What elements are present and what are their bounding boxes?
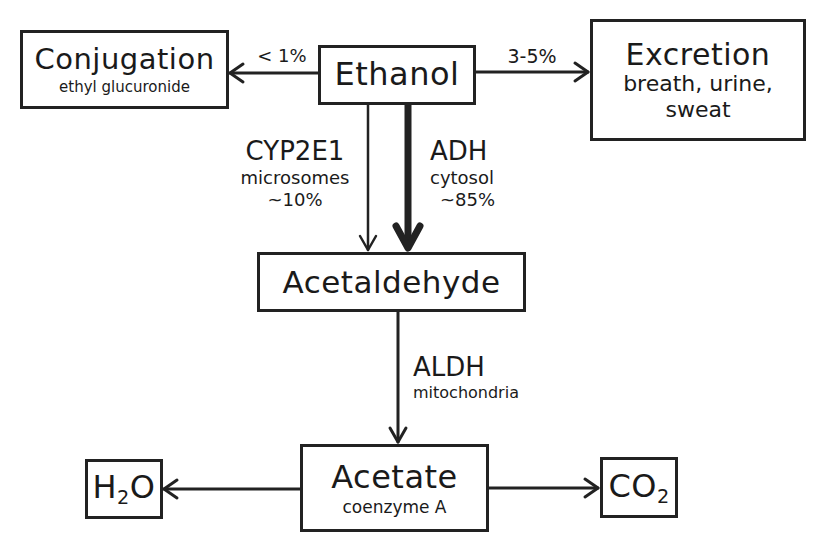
ethanol-box: Ethanol — [318, 45, 476, 105]
co2-prefix: CO — [608, 467, 657, 505]
cyp2e1-percent: ~10% — [230, 189, 360, 211]
acetate-box: Acetate coenzyme A — [300, 444, 489, 532]
conjugation-percent: < 1% — [257, 45, 306, 66]
adh-percent: ~85% — [424, 189, 514, 211]
acetaldehyde-box: Acetaldehyde — [257, 252, 526, 312]
adh-location: cytosol — [424, 167, 514, 189]
aldh-location: mitochondria — [413, 383, 553, 402]
water-formula: H2O — [93, 470, 156, 508]
water-subscript: 2 — [117, 486, 130, 509]
cyp2e1-label: CYP2E1 microsomes ~10% — [230, 136, 360, 210]
conjugation-subtitle: ethyl glucuronide — [59, 79, 190, 96]
conjugation-box: Conjugation ethyl glucuronide — [20, 30, 229, 109]
conjugation-title: Conjugation — [34, 44, 214, 76]
excretion-title: Excretion — [626, 38, 771, 71]
conjugation-percent-label: < 1% — [252, 45, 312, 67]
excretion-percent-label: 3-5% — [492, 45, 572, 68]
excretion-percent: 3-5% — [507, 45, 556, 67]
acetaldehyde-title: Acetaldehyde — [282, 265, 500, 299]
ethanol-title: Ethanol — [335, 57, 460, 92]
water-suffix: O — [130, 468, 156, 506]
co2-box: CO2 — [600, 457, 678, 518]
adh-label: ADH cytosol ~85% — [424, 136, 514, 210]
water-prefix: H — [93, 468, 118, 506]
acetate-title: Acetate — [331, 460, 458, 495]
co2-formula: CO2 — [608, 469, 669, 507]
co2-subscript: 2 — [657, 484, 670, 507]
excretion-box: Excretion breath, urine, sweat — [590, 19, 806, 141]
aldh-enzyme: ALDH — [413, 352, 553, 383]
cyp2e1-enzyme: CYP2E1 — [230, 136, 360, 167]
aldh-label: ALDH mitochondria — [413, 352, 553, 402]
acetate-subtitle: coenzyme A — [342, 498, 446, 517]
excretion-subtitle-line1: breath, urine, — [623, 71, 773, 96]
cyp2e1-location: microsomes — [230, 167, 360, 189]
water-box: H2O — [85, 459, 163, 519]
adh-enzyme: ADH — [424, 136, 514, 167]
excretion-subtitle-line2: sweat — [665, 97, 730, 122]
